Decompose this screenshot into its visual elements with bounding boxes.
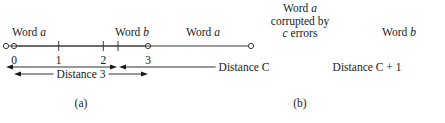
distance-arrowhead-left-outer-b bbox=[6, 65, 13, 70]
corrupted-word-label: Word a corrupted by c errors bbox=[271, 2, 329, 40]
distance-label-left-b: Distance C bbox=[216, 61, 273, 73]
distance-arrowhead-right-inner-b bbox=[119, 65, 126, 70]
panel-b: Word a Word b Word a corrupted by c erro… bbox=[182, 0, 445, 123]
endpoint-circle-left-b bbox=[3, 43, 8, 48]
word-a-label-panel-b: Word a bbox=[186, 26, 220, 39]
distance-label-right-b: Distance C + 1 bbox=[330, 61, 405, 73]
corrupted-label-line2: corrupted by bbox=[271, 15, 329, 28]
caption-panel-b: (b) bbox=[293, 97, 306, 109]
corrupted-label-line3: c errors bbox=[271, 27, 329, 40]
word-b-label-panel-b: Word b bbox=[382, 26, 416, 39]
endpoint-circle-right-b bbox=[248, 43, 253, 48]
corrupted-label-line1: Word a bbox=[271, 2, 329, 15]
distance-arrowhead-left-inner-b bbox=[110, 65, 117, 70]
figure-container: Word a Word b 0 1 2 3 Distance 3 (a) bbox=[0, 0, 445, 123]
